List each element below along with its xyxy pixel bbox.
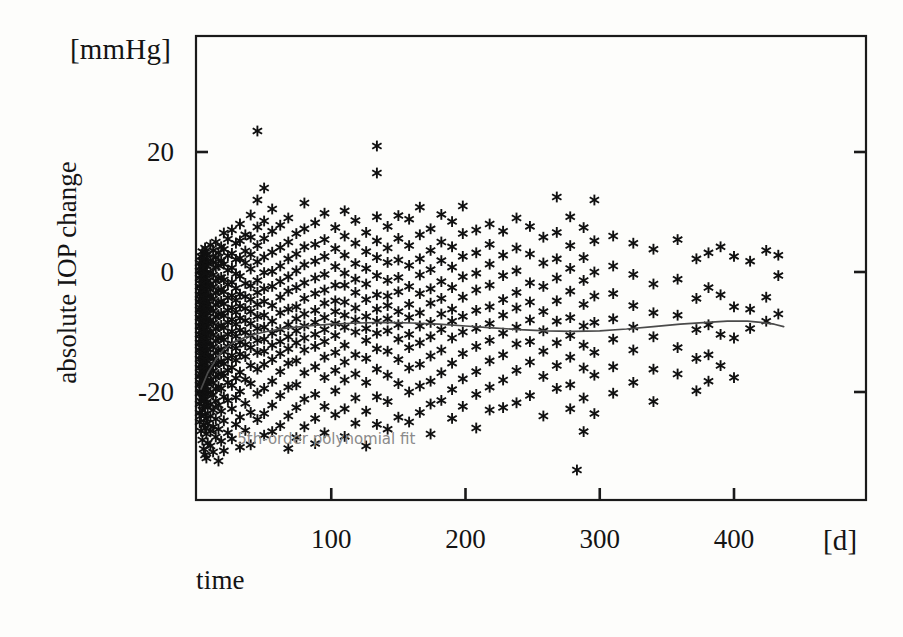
- x-axis-unit-label: [d]: [823, 524, 857, 557]
- x-axis-title: time: [196, 565, 245, 596]
- y-axis-unit-label: [mmHg]: [70, 33, 171, 66]
- y-tick-label: 20: [54, 137, 174, 168]
- fit-annotation-label: 5th-order polynomial fit: [237, 430, 415, 448]
- x-tick-label: 200: [411, 524, 521, 555]
- x-tick-label: 300: [545, 524, 655, 555]
- y-tick-label: 0: [54, 257, 174, 288]
- scatter-plot-figure: [mmHg] [d] absolute IOP change time 200-…: [0, 0, 903, 637]
- y-tick-label: -20: [54, 377, 174, 408]
- scatter-points: [195, 126, 783, 476]
- x-tick-label: 400: [679, 524, 789, 555]
- x-tick-label: 100: [276, 524, 386, 555]
